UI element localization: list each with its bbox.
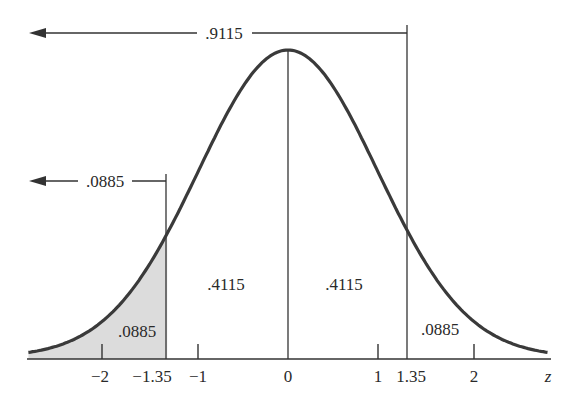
arrowhead-left-icon [29, 176, 46, 186]
arrow-cumulative-0885: .0885 [29, 172, 166, 191]
tick-label-minus-1.35: −1.35 [132, 367, 171, 386]
arrowhead-left-icon [29, 28, 46, 38]
tick-label-2: 2 [470, 367, 479, 386]
label-0885-arrow: .0885 [86, 172, 124, 191]
tick-label-0: 0 [284, 367, 293, 386]
tick-label-1: 1 [374, 367, 383, 386]
tick-label-minus-1: −1 [189, 367, 207, 386]
label-9115: .9115 [205, 24, 243, 43]
arrow-cumulative-9115: .9115 [29, 24, 407, 43]
label-left-tail-area: .0885 [118, 322, 156, 341]
tick-label-minus-2: −2 [91, 367, 109, 386]
axis-label-z: z [544, 367, 552, 386]
label-left-center-area: .4115 [207, 275, 245, 294]
normal-distribution-figure: .9115 .0885 .0885 .4115 .4115 .0885 −2 −… [0, 0, 574, 401]
label-right-tail-area: .0885 [421, 320, 459, 339]
tick-label-1.35: 1.35 [396, 367, 426, 386]
label-right-center-area: .4115 [325, 275, 363, 294]
